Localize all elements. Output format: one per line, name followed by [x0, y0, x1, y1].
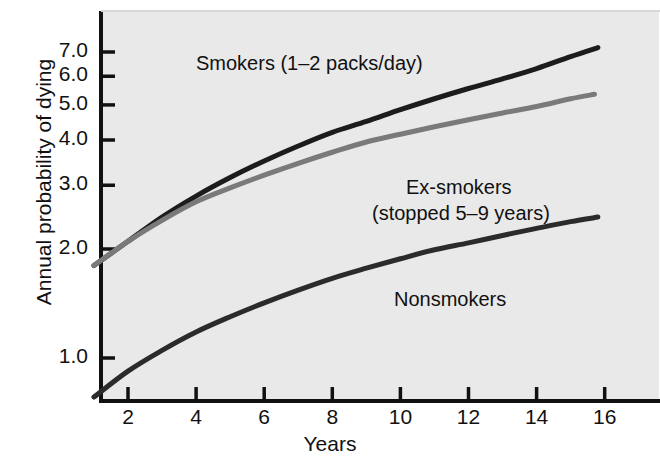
x-tick-label: 16 [585, 405, 625, 429]
x-axis-title: Years [0, 432, 660, 456]
y-axis-title: Annual probability of dying [32, 42, 56, 322]
x-tick-label: 14 [517, 405, 557, 429]
series-label-smokers: Smokers (1–2 packs/day) [196, 52, 423, 75]
x-tick-label: 12 [449, 405, 489, 429]
series-label-ex-smokers-line2: (stopped 5–9 years) [372, 202, 550, 225]
x-tick-label: 10 [380, 405, 420, 429]
y-tick-label: 1.0 [28, 344, 88, 368]
series-label-nonsmokers: Nonsmokers [394, 288, 506, 311]
y-axis-tick-marks [101, 52, 115, 358]
x-axis-tick-marks [128, 387, 605, 401]
series-line-nonsmokers [94, 217, 598, 397]
x-tick-label: 2 [108, 405, 148, 429]
x-tick-label: 4 [176, 405, 216, 429]
x-tick-label: 8 [312, 405, 352, 429]
chart-figure: 1.02.03.04.05.06.07.0 246810121416 Annua… [0, 0, 660, 457]
x-tick-label: 6 [244, 405, 284, 429]
series-line-ex-smokers [94, 94, 595, 265]
series-label-ex-smokers-line1: Ex-smokers [406, 176, 512, 199]
